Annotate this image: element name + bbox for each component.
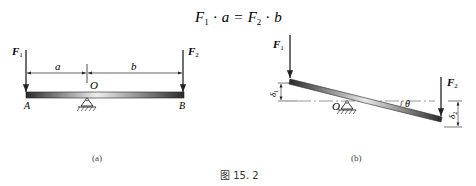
label-delta1: δ1 (268, 90, 279, 97)
figure-caption: 图 15. 2 (220, 170, 259, 181)
beam-horizontal (26, 92, 184, 98)
label-end-a: A (23, 100, 31, 111)
caption-b: (b) (351, 153, 362, 163)
label-f2-a: F2 (187, 45, 199, 59)
angle-arc (401, 101, 402, 106)
pivot-support-icon (77, 98, 96, 111)
lever-diagram: F1·a=F2·b F1 F2 a b O A B (a) F1 F2 O θ … (0, 0, 476, 186)
caption-a: (a) (92, 153, 102, 163)
label-f2-b: F2 (446, 76, 458, 90)
figure-b (278, 35, 462, 127)
beam-tilted (289, 79, 442, 122)
label-dim-b: b (131, 60, 137, 72)
label-end-b: B (179, 100, 185, 111)
label-pivot-o-b: O (332, 100, 340, 112)
figure-a (26, 50, 184, 111)
label-f1-b: F1 (272, 38, 284, 52)
label-f1-a: F1 (11, 45, 23, 59)
equation: F1·a=F2·b (194, 9, 282, 27)
label-delta2: δ2 (447, 112, 458, 119)
label-dim-a: a (55, 60, 61, 72)
label-angle-theta: θ (405, 98, 410, 109)
label-pivot-o-a: O (90, 79, 98, 91)
